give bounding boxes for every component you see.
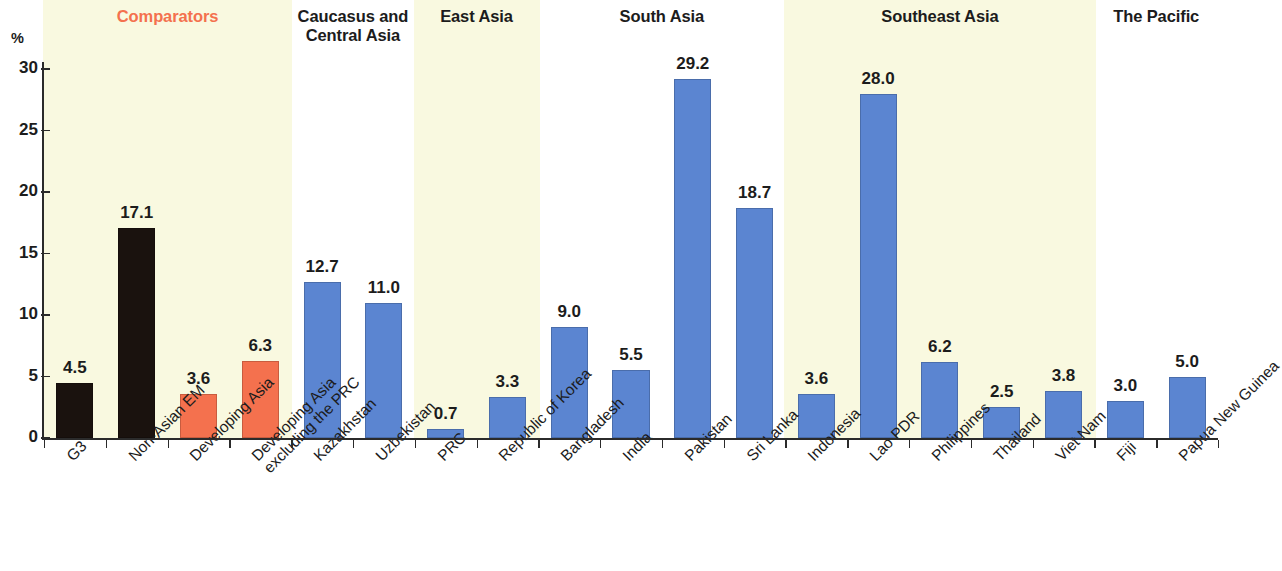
category-label: G3 (63, 437, 90, 464)
x-tick-mark (1156, 440, 1157, 448)
group-header-line1: Caucasus and (298, 7, 409, 25)
group-header-line1: The Pacific (1113, 7, 1199, 25)
x-tick-mark (106, 440, 107, 448)
x-tick-mark (600, 440, 601, 448)
x-tick-mark (353, 440, 354, 448)
bar-value-label: 3.0 (1085, 376, 1165, 396)
y-tick-mark-25 (41, 130, 50, 132)
x-tick-mark (291, 440, 292, 448)
y-tick-label-30: 30 (4, 58, 38, 78)
group-header-caucasus-central-asia: Caucasus andCentral Asia (290, 7, 416, 45)
y-tick-mark-30 (41, 68, 50, 70)
bar-value-label: 17.1 (97, 203, 177, 223)
y-tick-mark-20 (41, 191, 50, 193)
group-header-comparators: Comparators (43, 7, 293, 26)
y-tick-label-20: 20 (4, 181, 38, 201)
y-tick-label-10: 10 (4, 304, 38, 324)
bar-fiji[interactable] (1107, 401, 1144, 438)
x-tick-mark (971, 440, 972, 448)
bar-value-label: 18.7 (715, 183, 795, 203)
x-tick-mark (1094, 440, 1095, 448)
bar-value-label: 4.5 (35, 358, 115, 378)
category-label-line: Fiji (1113, 438, 1139, 464)
x-tick-mark (909, 440, 910, 448)
bar-value-label: 5.0 (1147, 352, 1227, 372)
x-tick-mark (1218, 440, 1219, 448)
group-header-line1: East Asia (440, 7, 513, 25)
x-tick-mark (785, 440, 786, 448)
category-label-line: G3 (63, 437, 90, 464)
group-header-southeast-asia: Southeast Asia (784, 7, 1095, 26)
category-label: Fiji (1113, 438, 1139, 464)
group-header-line1: South Asia (620, 7, 705, 25)
x-tick-mark (538, 440, 539, 448)
bar-value-label: 11.0 (344, 278, 424, 298)
x-tick-mark (168, 440, 169, 448)
group-header-south-asia: South Asia (537, 7, 787, 26)
x-tick-mark (44, 440, 45, 448)
x-tick-mark (724, 440, 725, 448)
bar-value-label: 6.3 (220, 336, 300, 356)
y-tick-mark-10 (41, 314, 50, 316)
bar-non-asian-em[interactable] (118, 228, 155, 438)
x-axis-line (42, 438, 1218, 440)
y-axis-unit-label: % (11, 30, 24, 46)
group-header-the-pacific: The Pacific (1093, 7, 1219, 26)
y-tick-label-15: 15 (4, 243, 38, 263)
group-header-line1: Southeast Asia (881, 7, 998, 25)
bar-value-label: 5.5 (591, 345, 671, 365)
group-header-east-asia: East Asia (414, 7, 540, 26)
bar-sri-lanka[interactable] (736, 208, 773, 438)
group-header-line2: Central Asia (306, 26, 400, 44)
y-tick-label-5: 5 (4, 366, 38, 386)
bar-pakistan[interactable] (674, 79, 711, 438)
bar-value-label: 9.0 (529, 302, 609, 322)
bar-value-label: 6.2 (900, 337, 980, 357)
bar-value-label: 28.0 (838, 69, 918, 89)
bar-value-label: 3.3 (467, 372, 547, 392)
bar-g3[interactable] (56, 383, 93, 438)
x-tick-mark (415, 440, 416, 448)
bar-uzbekistan[interactable] (365, 303, 402, 438)
x-tick-mark (847, 440, 848, 448)
x-tick-mark (477, 440, 478, 448)
bar-value-label: 12.7 (282, 257, 362, 277)
y-tick-label-0: 0 (4, 427, 38, 447)
y-tick-label-25: 25 (4, 120, 38, 140)
bar-value-label: 0.7 (406, 404, 486, 424)
bar-value-label: 29.2 (653, 54, 733, 74)
bar-value-label: 3.6 (776, 369, 856, 389)
x-tick-mark (1033, 440, 1034, 448)
group-header-line1: Comparators (117, 7, 219, 25)
bar-value-label: 3.6 (158, 369, 238, 389)
y-tick-mark-15 (41, 253, 50, 255)
bar-lao-pdr[interactable] (860, 94, 897, 438)
x-tick-mark (662, 440, 663, 448)
x-tick-mark (229, 440, 230, 448)
